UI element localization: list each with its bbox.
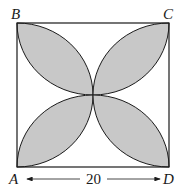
petal-top-right	[93, 23, 169, 95]
vertex-label-b: B	[11, 6, 20, 22]
petals	[17, 23, 169, 167]
petal-bottom-right	[93, 95, 169, 167]
petal-top-left	[17, 23, 93, 95]
side-length-label: 20	[86, 171, 101, 187]
vertex-label-a: A	[8, 171, 19, 187]
vertex-label-d: D	[162, 171, 174, 187]
square-petal-diagram: B C A D 20	[0, 0, 183, 191]
vertex-label-c: C	[163, 6, 174, 22]
petal-bottom-left	[17, 95, 93, 167]
